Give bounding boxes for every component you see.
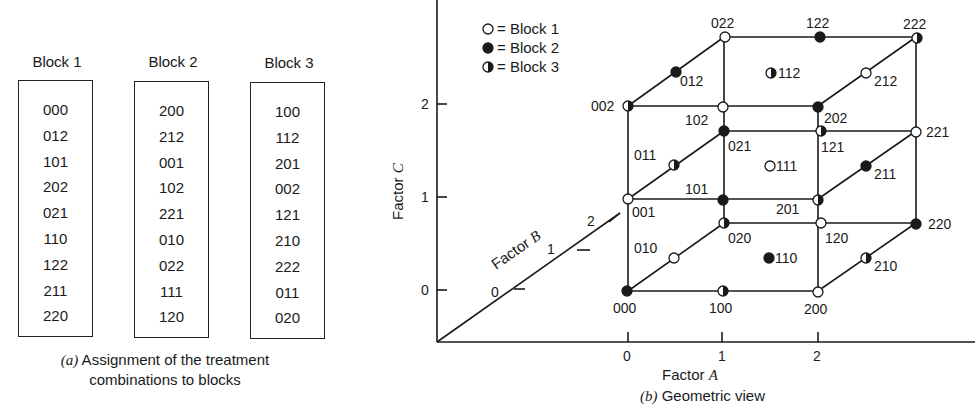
- open-circle-icon: [669, 253, 679, 263]
- treatment-points: 0001002000101102100201202200011012010111…: [591, 15, 952, 317]
- point-011: 011: [634, 147, 679, 170]
- point-label: 012: [680, 73, 704, 89]
- filled-circle-icon: [813, 102, 823, 112]
- open-circle-icon: [623, 194, 633, 204]
- point-label: 110: [775, 250, 798, 266]
- point-222: 222: [903, 16, 927, 43]
- b-tick-0: 0: [491, 284, 499, 300]
- axis-a-ticks: 0 1 2: [623, 348, 821, 364]
- point-label: 001: [632, 204, 656, 220]
- legend-block-1: = Block 1: [497, 20, 559, 37]
- point-label: 112: [778, 65, 801, 81]
- point-label: 111: [776, 158, 797, 174]
- panel-b-geometric-view: 0 1 2 0 1 2 0 1 2 Factor C Factor B Fact…: [0, 0, 980, 415]
- axis-c-label: Factor C: [389, 162, 406, 220]
- axis-c-ticks: 0 1 2: [421, 96, 429, 298]
- point-label: 121: [821, 139, 845, 155]
- b-tick-1: 1: [547, 241, 555, 257]
- open-circle-icon: [718, 102, 728, 112]
- point-002: 002: [591, 98, 633, 114]
- a-tick-1: 1: [718, 348, 726, 364]
- point-label: 011: [634, 147, 657, 163]
- filled-circle-icon: [764, 253, 774, 263]
- point-label: 200: [804, 301, 828, 317]
- point-label: 202: [824, 110, 848, 126]
- point-111: 111: [765, 158, 797, 174]
- filled-circle-icon: [718, 195, 728, 205]
- a-tick-2: 2: [813, 348, 821, 364]
- open-circle-icon: [816, 218, 826, 228]
- axis-b-label: Factor B: [488, 226, 544, 272]
- point-label: 101: [685, 181, 709, 197]
- point-210: 210: [861, 253, 898, 274]
- point-label: 021: [728, 138, 752, 154]
- c-tick-1: 1: [421, 189, 429, 205]
- filled-circle-icon: [719, 126, 729, 136]
- point-112: 112: [766, 65, 801, 81]
- point-label: 222: [903, 16, 927, 32]
- open-circle-icon: [483, 24, 493, 34]
- point-label: 221: [926, 124, 950, 140]
- filled-circle-icon: [815, 32, 825, 42]
- point-220: 220: [911, 216, 952, 232]
- point-101: 101: [685, 181, 728, 205]
- a-tick-0: 0: [623, 348, 631, 364]
- point-label: 122: [806, 15, 830, 31]
- point-010: 010: [634, 240, 679, 263]
- point-110: 110: [764, 250, 798, 266]
- open-circle-icon: [765, 161, 775, 171]
- point-label: 002: [591, 98, 615, 114]
- point-022: 022: [711, 15, 735, 42]
- open-circle-icon: [720, 32, 730, 42]
- point-label: 022: [711, 15, 735, 31]
- caption-b: (b) Geometric view: [640, 387, 765, 405]
- b-tick-2: 2: [587, 213, 595, 229]
- legend: = Block 1 = Block 2 = Block 3: [483, 20, 559, 75]
- point-122: 122: [806, 15, 830, 42]
- point-label: 100: [709, 300, 733, 316]
- point-label: 212: [874, 73, 898, 89]
- filled-circle-icon: [861, 161, 871, 171]
- point-label: 020: [728, 230, 752, 246]
- open-circle-icon: [813, 287, 823, 297]
- open-circle-icon: [911, 127, 921, 137]
- point-label: 211: [874, 166, 897, 182]
- point-label: 000: [613, 300, 637, 316]
- open-circle-icon: [861, 68, 871, 78]
- point-label: 102: [685, 112, 709, 128]
- point-label: 201: [776, 201, 800, 217]
- legend-block-2: = Block 2: [497, 39, 559, 56]
- axis-a-label: Factor A: [662, 366, 719, 383]
- point-label: 210: [874, 258, 898, 274]
- point-label: 220: [928, 216, 952, 232]
- point-label: 010: [634, 240, 658, 256]
- point-212: 212: [861, 68, 898, 89]
- c-tick-2: 2: [421, 96, 429, 112]
- filled-circle-icon: [911, 219, 921, 229]
- c-tick-0: 0: [421, 282, 429, 298]
- point-label: 120: [825, 230, 849, 246]
- filled-circle-icon: [483, 43, 493, 53]
- point-211: 211: [861, 161, 897, 182]
- half-filled-circle-icon: [483, 62, 493, 72]
- legend-block-3: = Block 3: [497, 58, 559, 75]
- filled-circle-icon: [622, 286, 632, 296]
- point-012: 012: [671, 67, 704, 89]
